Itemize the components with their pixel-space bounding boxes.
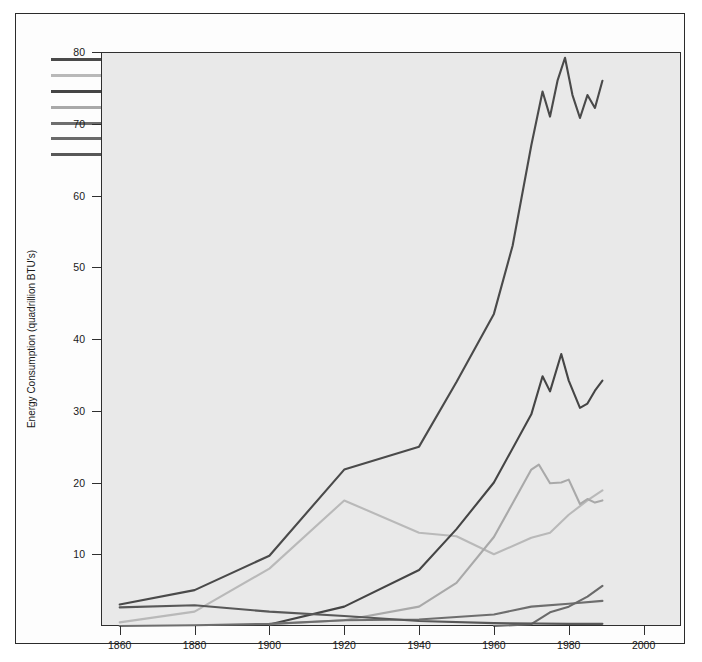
y-axis-tick-label: 50 (51, 261, 85, 273)
x-axis-tick-label: 1900 (244, 639, 294, 651)
y-axis-tick (92, 339, 101, 340)
x-axis-tick-label: 1960 (469, 639, 519, 651)
x-axis-tick (644, 626, 645, 635)
legend-swatch-nuclear-power (51, 137, 108, 140)
legend-swatch-wood-and-other (51, 153, 108, 156)
x-axis-tick-label: 1860 (95, 639, 145, 651)
series-line-natural-gas (269, 465, 602, 625)
x-axis-tick-label: 1980 (544, 639, 594, 651)
y-axis-tick (92, 483, 101, 484)
x-axis-tick-label: 1920 (319, 639, 369, 651)
y-axis-tick (92, 52, 101, 53)
y-axis-tick-label: 60 (51, 190, 85, 202)
x-axis-tick (269, 626, 270, 635)
legend-swatch-natural-gas (51, 106, 108, 109)
y-axis-tick (92, 196, 101, 197)
x-axis-tick (344, 626, 345, 635)
series-line-total (120, 58, 603, 605)
x-axis-tick (494, 626, 495, 635)
x-axis-tick (569, 626, 570, 635)
chart-lines (101, 52, 681, 626)
x-axis-tick-label: 2000 (619, 639, 669, 651)
x-axis-tick-label: 1880 (170, 639, 220, 651)
x-axis-tick (120, 626, 121, 635)
y-axis-tick (92, 267, 101, 268)
y-axis-tick-label: 10 (51, 548, 85, 560)
y-axis-title: Energy Consumption (quadrillion BTU's) (26, 189, 37, 489)
legend-swatch-coal (51, 74, 108, 77)
y-axis-tick-label: 40 (51, 333, 85, 345)
y-axis-tick-label: 70 (51, 118, 85, 130)
y-axis-tick-label: 30 (51, 405, 85, 417)
x-axis-tick (419, 626, 420, 635)
legend-swatch-total (51, 58, 108, 61)
y-axis-tick (92, 554, 101, 555)
x-axis-tick-label: 1940 (394, 639, 444, 651)
x-axis-tick (195, 626, 196, 635)
y-axis-tick (92, 411, 101, 412)
chart-frame: Total Coal Oil Natural Gas Water Power N… (15, 13, 685, 644)
plot-area: 1020304050607080186018801900192019401960… (101, 52, 681, 626)
legend-swatch-oil (51, 90, 108, 93)
series-line-oil (269, 354, 602, 625)
y-axis-tick-label: 20 (51, 477, 85, 489)
y-axis-tick (92, 124, 101, 125)
y-axis-tick-label: 80 (51, 46, 85, 58)
series-line-coal (120, 490, 603, 622)
